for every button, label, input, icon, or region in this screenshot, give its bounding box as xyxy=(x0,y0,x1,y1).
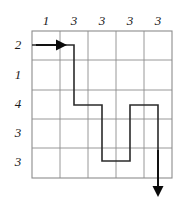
column-label-5: 3 xyxy=(154,13,162,28)
figure-canvas: 1 3 3 3 3 2 1 4 3 3 xyxy=(0,0,183,203)
row-label-4: 3 xyxy=(14,125,22,140)
row-label-5: 3 xyxy=(14,154,22,169)
row-label-1: 2 xyxy=(15,37,22,52)
column-label-4: 3 xyxy=(126,13,134,28)
column-label-1: 1 xyxy=(43,13,50,28)
exit-arrow-head xyxy=(153,186,164,197)
row-label-3: 4 xyxy=(15,96,22,111)
routing-path xyxy=(32,45,158,190)
column-label-3: 3 xyxy=(98,13,106,28)
column-labels-group: 1 3 3 3 3 xyxy=(43,13,162,28)
row-label-2: 1 xyxy=(15,67,22,82)
entry-arrow-head xyxy=(56,40,67,51)
row-labels-group: 2 1 4 3 3 xyxy=(14,37,22,169)
exit-arrow xyxy=(153,150,164,197)
grid-path-figure: 1 3 3 3 3 2 1 4 3 3 xyxy=(0,0,183,203)
column-label-2: 3 xyxy=(70,13,78,28)
entry-arrow xyxy=(36,40,67,51)
